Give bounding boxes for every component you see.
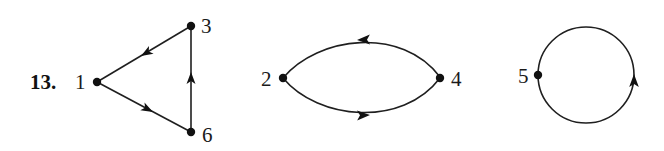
node-label-6: 6 [202, 123, 213, 147]
edge-1-to-6 [97, 82, 191, 132]
node-label-1: 1 [75, 70, 86, 94]
node-label-2: 2 [261, 67, 272, 91]
graph-loop: 5 [518, 27, 639, 123]
arrowhead-icon [357, 110, 370, 120]
graph-triangle: 1 3 6 [75, 14, 213, 147]
node-3 [187, 22, 195, 30]
node-4 [436, 74, 444, 82]
node-6 [187, 128, 195, 136]
edge-4-to-2 [283, 43, 440, 78]
arrowhead-icon [139, 46, 154, 60]
arrowhead-icon [140, 102, 155, 116]
node-label-4: 4 [451, 67, 462, 91]
edge-2-to-4 [283, 78, 440, 113]
arrowhead-icon [629, 74, 639, 87]
node-5 [534, 71, 542, 79]
problem-number: 13. [30, 70, 56, 94]
edge-5-loop [538, 27, 634, 123]
graph-digon: 2 4 [261, 35, 462, 121]
node-2 [279, 74, 287, 82]
node-1 [93, 78, 101, 86]
node-label-5: 5 [518, 64, 529, 88]
directed-graph-figure: 13. 1 3 6 [0, 0, 664, 151]
node-label-3: 3 [201, 14, 212, 38]
